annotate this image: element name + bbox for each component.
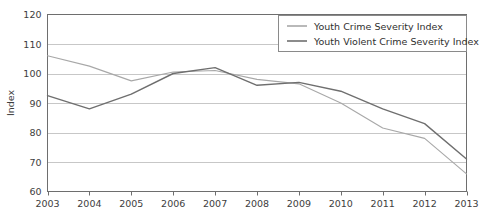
y-tick-label-90: 90: [29, 98, 41, 109]
x-tick-label-2010: 2010: [329, 198, 353, 209]
x-tick-label-2009: 2009: [287, 198, 311, 209]
y-axis-title: Index: [5, 90, 16, 117]
y-tick-label-120: 120: [23, 9, 41, 20]
x-tick-label-2003: 2003: [35, 198, 59, 209]
legend-label-youth-violent-crime-severity-index[interactable]: Youth Violent Crime Severity Index: [313, 36, 479, 47]
x-tick-label-2011: 2011: [371, 198, 395, 209]
chart-legend[interactable]: Youth Crime Severity Index Youth Violent…: [279, 16, 480, 52]
line-chart-figure: 60708090100110120 2003200420052006200720…: [0, 0, 489, 219]
x-tick-label-2005: 2005: [119, 198, 143, 209]
x-tick-label-2013: 2013: [454, 198, 478, 209]
x-tick-label-2012: 2012: [413, 198, 437, 209]
legend-label-youth-crime-severity-index[interactable]: Youth Crime Severity Index: [313, 21, 443, 32]
x-tick-label-2004: 2004: [77, 198, 101, 209]
y-tick-label-70: 70: [29, 157, 41, 168]
chart-canvas: 60708090100110120 2003200420052006200720…: [0, 0, 489, 219]
x-tick-label-2007: 2007: [203, 198, 227, 209]
x-tick-label-2008: 2008: [245, 198, 269, 209]
y-tick-label-80: 80: [29, 127, 41, 138]
x-tick-label-2006: 2006: [161, 198, 185, 209]
y-tick-label-60: 60: [29, 186, 41, 197]
y-tick-label-100: 100: [23, 68, 41, 79]
y-tick-label-110: 110: [23, 39, 41, 50]
